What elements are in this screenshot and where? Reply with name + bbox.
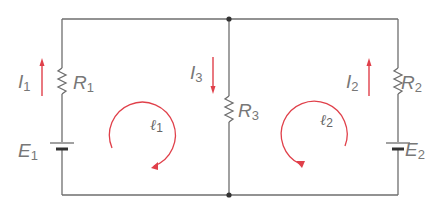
junction-top [226,16,231,21]
label-i3: I3 [190,63,203,84]
circuit-diagram [0,0,441,210]
label-loop-l2: ℓ2 [320,113,333,129]
junction-bottom [226,192,231,197]
label-r1: R1 [73,73,94,94]
label-e1: E1 [18,141,38,162]
label-e2: E2 [405,140,425,161]
loop-arrowhead-l1 [151,162,158,170]
label-loop-l1: ℓ1 [150,118,163,134]
label-i2: I2 [346,72,359,93]
loop-arrowhead-l2 [296,161,305,168]
label-i1: I1 [18,72,31,93]
resistor-r1 [58,68,66,94]
loop-arrow-l2 [281,101,347,164]
label-r2: R2 [401,73,422,94]
battery-e1 [50,143,74,149]
loop-arrow-l1 [109,102,175,166]
resistor-r3 [225,96,233,122]
label-r3: R3 [238,101,259,122]
